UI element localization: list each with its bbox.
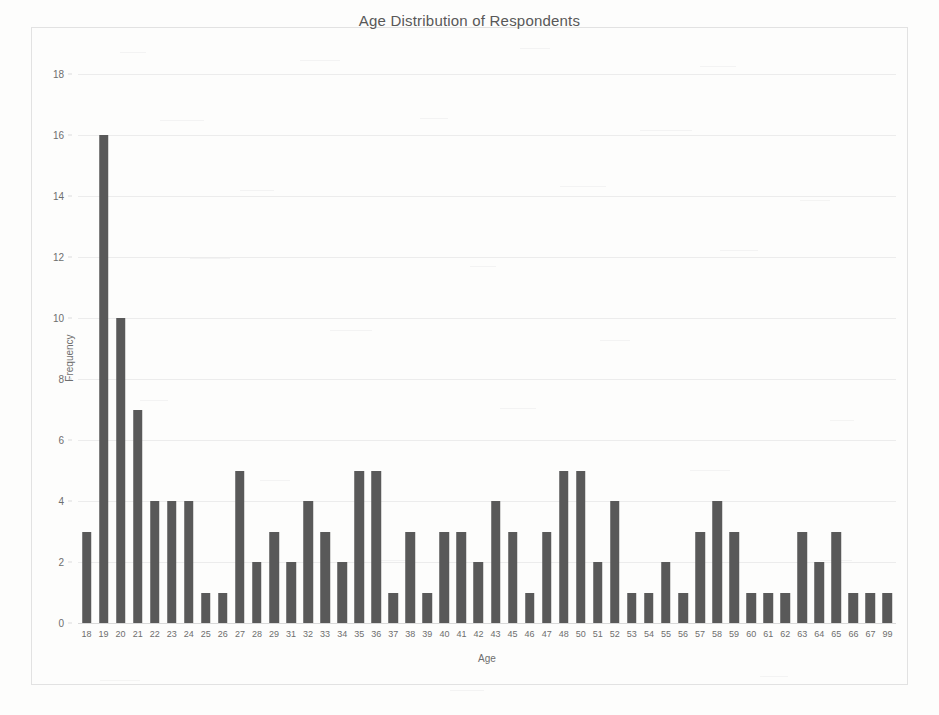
x-tick-label-57: 57	[695, 629, 705, 639]
bar-slot	[146, 74, 163, 623]
x-tick-label-67: 67	[865, 629, 875, 639]
x-tick-label-64: 64	[814, 629, 824, 639]
bar	[866, 593, 876, 624]
bar	[218, 593, 228, 624]
bar	[440, 532, 450, 624]
x-tick-label-51: 51	[593, 629, 603, 639]
bar-slot	[623, 74, 640, 623]
y-tick-label-2: 2	[58, 557, 64, 568]
bar	[82, 532, 92, 624]
bar	[406, 532, 416, 624]
bar-slot	[78, 74, 95, 623]
bar	[269, 532, 279, 624]
x-tick-label-65: 65	[831, 629, 841, 639]
y-tick-mark-6	[68, 440, 72, 441]
gridline-0	[78, 623, 896, 624]
bar-slot	[453, 74, 470, 623]
bar	[201, 593, 211, 624]
bar	[116, 318, 126, 623]
bar-slot	[726, 74, 743, 623]
bar	[303, 501, 313, 623]
bar-slot	[709, 74, 726, 623]
x-tick-label-56: 56	[678, 629, 688, 639]
x-tick-label-41: 41	[456, 629, 466, 639]
bar	[559, 471, 569, 624]
x-tick-label-39: 39	[422, 629, 432, 639]
bar	[389, 593, 399, 624]
bar-slot	[743, 74, 760, 623]
x-tick-label-26: 26	[218, 629, 228, 639]
bar-slot	[317, 74, 334, 623]
y-tick-mark-4	[68, 501, 72, 502]
x-tick-label-18: 18	[82, 629, 92, 639]
bar-slot	[828, 74, 845, 623]
x-tick-label-47: 47	[542, 629, 552, 639]
bar-slot	[692, 74, 709, 623]
bar	[729, 532, 739, 624]
x-tick-label-33: 33	[320, 629, 330, 639]
y-axis-tick-labels: 024681012141618	[0, 74, 72, 623]
y-tick-mark-8	[68, 379, 72, 380]
x-tick-label-35: 35	[354, 629, 364, 639]
x-tick-label-52: 52	[610, 629, 620, 639]
bar	[337, 562, 347, 623]
x-tick-label-42: 42	[473, 629, 483, 639]
bar	[252, 562, 262, 623]
y-tick-label-6: 6	[58, 435, 64, 446]
bar	[832, 532, 842, 624]
x-tick-label-36: 36	[371, 629, 381, 639]
x-tick-label-34: 34	[337, 629, 347, 639]
y-tick-mark-18	[68, 74, 72, 75]
bar-slot	[487, 74, 504, 623]
x-tick-label-32: 32	[303, 629, 313, 639]
y-tick-label-10: 10	[53, 313, 64, 324]
bar	[457, 532, 467, 624]
x-tick-label-28: 28	[252, 629, 262, 639]
bar-slot	[555, 74, 572, 623]
bar	[576, 471, 586, 624]
x-tick-label-53: 53	[627, 629, 637, 639]
x-tick-label-60: 60	[746, 629, 756, 639]
bar-slot	[436, 74, 453, 623]
x-tick-label-54: 54	[644, 629, 654, 639]
bar-slot	[368, 74, 385, 623]
bar	[99, 135, 109, 623]
x-tick-label-66: 66	[848, 629, 858, 639]
x-axis-title: Age	[78, 653, 896, 664]
bar	[542, 532, 552, 624]
x-tick-label-45: 45	[508, 629, 518, 639]
bar-slot	[112, 74, 129, 623]
bar	[695, 532, 705, 624]
bar-slot	[760, 74, 777, 623]
bar	[678, 593, 688, 624]
bar-series	[78, 74, 896, 623]
bar-slot	[589, 74, 606, 623]
x-tick-label-37: 37	[388, 629, 398, 639]
x-tick-label-61: 61	[763, 629, 773, 639]
x-tick-label-21: 21	[133, 629, 143, 639]
y-tick-mark-12	[68, 257, 72, 258]
bar-slot	[180, 74, 197, 623]
bar-slot	[674, 74, 691, 623]
x-tick-label-38: 38	[405, 629, 415, 639]
bar	[712, 501, 722, 623]
bar-slot	[265, 74, 282, 623]
x-tick-label-59: 59	[729, 629, 739, 639]
bar-slot	[283, 74, 300, 623]
bar-slot	[470, 74, 487, 623]
bar-slot	[385, 74, 402, 623]
x-tick-label-19: 19	[99, 629, 109, 639]
y-tick-label-14: 14	[53, 191, 64, 202]
x-tick-label-58: 58	[712, 629, 722, 639]
x-tick-label-23: 23	[167, 629, 177, 639]
bar	[746, 593, 756, 624]
y-tick-mark-16	[68, 135, 72, 136]
x-tick-label-55: 55	[661, 629, 671, 639]
y-tick-label-16: 16	[53, 130, 64, 141]
bar	[780, 593, 790, 624]
bar-slot	[845, 74, 862, 623]
y-tick-mark-10	[68, 318, 72, 319]
y-tick-mark-0	[68, 623, 72, 624]
bar	[763, 593, 773, 624]
bar	[644, 593, 654, 624]
